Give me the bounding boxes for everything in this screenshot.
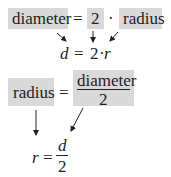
arrow-icon — [36, 31, 118, 135]
arrows — [0, 0, 171, 177]
